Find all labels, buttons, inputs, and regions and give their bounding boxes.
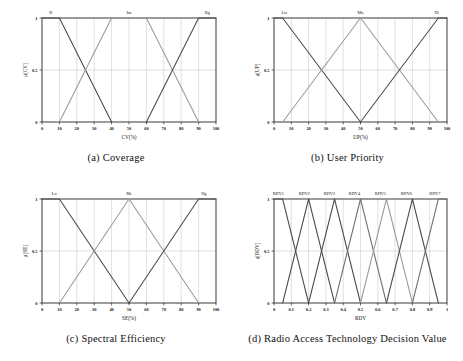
caption-a: (a)Coverage bbox=[87, 152, 144, 163]
y-axis-title: μ[RDV] bbox=[254, 242, 261, 259]
x-tick-label: 0.8 bbox=[410, 307, 416, 312]
x-tick-label: 80 bbox=[410, 126, 415, 131]
y-tick-label: 0.5 bbox=[264, 249, 270, 254]
plot-area-b: LwMuHi010203040506070809010000.51UP(%)μ[… bbox=[232, 0, 463, 150]
x-tick-label: 10 bbox=[289, 126, 294, 131]
x-tick-label: 60 bbox=[144, 126, 149, 131]
x-axis-title: RDV bbox=[355, 315, 366, 321]
x-tick-label: 40 bbox=[109, 126, 114, 131]
caption-d-text: Radio Access Technology Decision Value bbox=[264, 333, 447, 344]
x-axis-title: SE(%) bbox=[122, 315, 136, 322]
x-tick-label: 0 bbox=[273, 307, 276, 312]
x-tick-label: 90 bbox=[196, 126, 201, 131]
x-axis-title: UP(%) bbox=[353, 134, 368, 141]
x-tick-label: 40 bbox=[109, 307, 114, 312]
caption-c-text: Spectral Efficiency bbox=[81, 333, 165, 344]
x-tick-label: 0.6 bbox=[375, 307, 381, 312]
x-tick-label: 40 bbox=[341, 126, 346, 131]
chart-svg-spectral-efficiency: LoMeHg010203040506070809010000.51SE(%)μ[… bbox=[0, 181, 232, 331]
chart-svg-user-priority: LwMuHi010203040506070809010000.51UP(%)μ[… bbox=[232, 0, 463, 150]
set-label-rdv6: RDV6 bbox=[401, 191, 413, 196]
x-tick-label: 0.4 bbox=[340, 307, 346, 312]
x-tick-label: 100 bbox=[213, 307, 220, 312]
set-label-lo: Lo bbox=[52, 191, 57, 196]
x-tick-label: 0 bbox=[41, 307, 44, 312]
x-tick-label: 30 bbox=[324, 126, 329, 131]
caption-a-text: Coverage bbox=[103, 152, 145, 163]
x-tick-label: 100 bbox=[444, 126, 451, 131]
x-tick-label: 50 bbox=[127, 126, 132, 131]
x-tick-label: 0.7 bbox=[392, 307, 398, 312]
y-tick-label: 0 bbox=[35, 301, 38, 306]
set-label-sl: Sl bbox=[49, 10, 53, 15]
panel-d-rdv: RDV1RDV2RDV3RDV4RDV5RDV6RDV700.10.20.30.… bbox=[232, 181, 463, 361]
x-tick-label: 50 bbox=[358, 126, 363, 131]
caption-c: (c)Spectral Efficiency bbox=[66, 333, 166, 344]
x-tick-label: 80 bbox=[179, 126, 184, 131]
x-tick-label: 0 bbox=[41, 126, 44, 131]
plot-area-c: LoMeHg010203040506070809010000.51SE(%)μ[… bbox=[0, 181, 232, 331]
x-tick-label: 70 bbox=[393, 126, 398, 131]
x-tick-label: 70 bbox=[162, 307, 167, 312]
set-label-me: Me bbox=[126, 191, 132, 196]
x-tick-label: 1 bbox=[446, 307, 448, 312]
set-label-rdv4: RDV4 bbox=[349, 191, 361, 196]
set-label-mu: Mu bbox=[358, 10, 365, 15]
y-tick-label: 1 bbox=[267, 197, 269, 202]
x-tick-label: 90 bbox=[428, 126, 433, 131]
set-label-rdv5: RDV5 bbox=[375, 191, 386, 196]
caption-d: (d)Radio Access Technology Decision Valu… bbox=[248, 333, 446, 344]
set-label-rdv2: RDV2 bbox=[299, 191, 310, 196]
y-tick-label: 0.5 bbox=[32, 68, 38, 73]
x-tick-label: 0.5 bbox=[358, 307, 364, 312]
x-tick-label: 20 bbox=[306, 126, 311, 131]
y-tick-label: 0 bbox=[267, 120, 270, 125]
y-tick-label: 1 bbox=[35, 197, 37, 202]
caption-d-number: (d) bbox=[248, 333, 261, 344]
y-axis-title: μ[UP] bbox=[254, 63, 261, 76]
x-tick-label: 0.9 bbox=[427, 307, 433, 312]
y-tick-label: 1 bbox=[35, 16, 37, 21]
y-tick-label: 0 bbox=[267, 301, 270, 306]
panel-c-spectral-efficiency: LoMeHg010203040506070809010000.51SE(%)μ[… bbox=[0, 181, 232, 361]
caption-b-number: (b) bbox=[311, 152, 324, 163]
plot-area-a: SlImBg010203040506070809010000.51CV(%)μ[… bbox=[0, 0, 232, 150]
caption-b-text: User Priority bbox=[327, 152, 384, 163]
x-tick-label: 0.1 bbox=[289, 307, 295, 312]
chart-svg-coverage: SlImBg010203040506070809010000.51CV(%)μ[… bbox=[0, 0, 232, 150]
plot-area-d: RDV1RDV2RDV3RDV4RDV5RDV6RDV700.10.20.30.… bbox=[232, 181, 463, 331]
x-tick-label: 10 bbox=[57, 126, 62, 131]
set-label-hi: Hi bbox=[434, 10, 439, 15]
x-tick-label: 70 bbox=[162, 126, 167, 131]
set-label-im: Im bbox=[127, 10, 132, 15]
x-tick-label: 0.3 bbox=[323, 307, 329, 312]
panel-a-coverage: SlImBg010203040506070809010000.51CV(%)μ[… bbox=[0, 0, 232, 181]
set-label-rdv3: RDV3 bbox=[324, 191, 335, 196]
x-tick-label: 20 bbox=[75, 307, 80, 312]
figure-panel-grid: SlImBg010203040506070809010000.51CV(%)μ[… bbox=[0, 0, 463, 361]
caption-c-number: (c) bbox=[66, 333, 78, 344]
y-tick-label: 0.5 bbox=[32, 249, 38, 254]
x-tick-label: 20 bbox=[75, 126, 80, 131]
x-tick-label: 100 bbox=[213, 126, 220, 131]
y-tick-label: 0.5 bbox=[264, 68, 270, 73]
chart-svg-rdv: RDV1RDV2RDV3RDV4RDV5RDV6RDV700.10.20.30.… bbox=[232, 181, 463, 331]
x-tick-label: 60 bbox=[376, 126, 381, 131]
x-tick-label: 80 bbox=[179, 307, 184, 312]
caption-b: (b)User Priority bbox=[311, 152, 384, 163]
caption-a-number: (a) bbox=[87, 152, 99, 163]
y-tick-label: 0 bbox=[35, 120, 38, 125]
set-label-lw: Lw bbox=[282, 10, 289, 15]
x-tick-label: 10 bbox=[57, 307, 62, 312]
y-tick-label: 1 bbox=[267, 16, 269, 21]
set-label-bg: Bg bbox=[205, 10, 211, 15]
x-axis-title: CV(%) bbox=[122, 134, 137, 141]
y-axis-title: μ[CV] bbox=[22, 63, 29, 77]
set-label-rdv7: RDV7 bbox=[429, 191, 441, 196]
x-tick-label: 60 bbox=[144, 307, 149, 312]
y-axis-title: μ[SE] bbox=[22, 245, 29, 258]
set-label-hg: Hg bbox=[201, 191, 207, 196]
x-tick-label: 0.2 bbox=[306, 307, 312, 312]
set-label-rdv1: RDV1 bbox=[273, 191, 284, 196]
x-tick-label: 30 bbox=[92, 126, 97, 131]
